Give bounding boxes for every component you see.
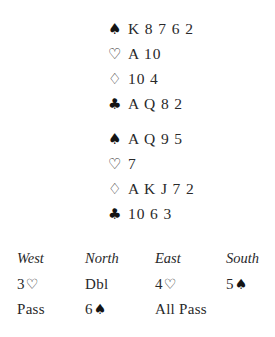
bid-east: All Pass (155, 297, 208, 322)
bid-west: 3♡ (17, 272, 39, 297)
bid-level: Pass (17, 301, 45, 317)
heart-icon: ♡ (163, 276, 177, 292)
heart-icon: ♡ (108, 42, 125, 67)
club-ranks: A Q 8 2 (125, 95, 183, 112)
bid-level: 3 (17, 276, 25, 292)
auction-row: Pass 6♠ All Pass (0, 297, 275, 322)
spade-icon: ♠ (93, 301, 107, 317)
bid-level: 5 (226, 276, 234, 292)
heart-icon: ♡ (108, 152, 125, 177)
club-ranks: 10 6 3 (125, 205, 172, 222)
suit-row-clubs: ♣10 6 3 (108, 201, 195, 226)
bid-level: 4 (155, 276, 163, 292)
bid-level: 6 (85, 301, 93, 317)
diamond-ranks: 10 4 (125, 70, 159, 87)
suit-icon (207, 301, 208, 317)
suit-icon (226, 301, 227, 317)
suit-row-diamonds: ♢10 4 (108, 66, 194, 91)
spade-icon: ♠ (234, 276, 248, 292)
heart-ranks: A 10 (125, 45, 161, 62)
auction-row: 3♡ Dbl 4♡ 5♠ (0, 272, 275, 297)
suit-row-diamonds: ♢A K J 7 2 (108, 176, 195, 201)
diamond-icon: ♢ (108, 67, 125, 92)
spade-icon: ♠ (108, 17, 125, 42)
bid-level: All Pass (155, 301, 207, 317)
auction-header-south: South (226, 246, 259, 271)
hand-south: ♠A Q 9 5 ♡7 ♢A K J 7 2 ♣10 6 3 (108, 126, 195, 226)
suit-row-spades: ♠K 8 7 6 2 (108, 16, 194, 41)
auction-table: West North East South 3♡ Dbl 4♡ 5♠ Pass … (0, 246, 275, 322)
bid-south: 5♠ (226, 272, 248, 297)
club-icon: ♣ (108, 92, 125, 117)
auction-header-east: East (155, 246, 181, 271)
bid-north: 6♠ (85, 297, 107, 322)
diamond-icon: ♢ (108, 177, 125, 202)
suit-row-hearts: ♡A 10 (108, 41, 194, 66)
bid-west: Pass (17, 297, 46, 322)
bid-south (226, 297, 227, 322)
auction-header-west: West (17, 246, 44, 271)
bid-level: Dbl (85, 276, 108, 292)
club-icon: ♣ (108, 202, 125, 227)
suit-row-clubs: ♣A Q 8 2 (108, 91, 194, 116)
suit-icon (45, 301, 46, 317)
suit-row-spades: ♠A Q 9 5 (108, 126, 195, 151)
spade-ranks: A Q 9 5 (125, 130, 183, 147)
heart-icon: ♡ (25, 276, 39, 292)
bid-north: Dbl (85, 272, 109, 297)
auction-header-north: North (85, 246, 119, 271)
hand-north: ♠K 8 7 6 2 ♡A 10 ♢10 4 ♣A Q 8 2 (108, 16, 194, 116)
spade-icon: ♠ (108, 127, 125, 152)
auction-header-row: West North East South (0, 246, 275, 272)
heart-ranks: 7 (125, 155, 137, 172)
diamond-ranks: A K J 7 2 (125, 180, 195, 197)
bid-east: 4♡ (155, 272, 177, 297)
suit-icon (108, 276, 109, 292)
spade-ranks: K 8 7 6 2 (125, 20, 194, 37)
suit-row-hearts: ♡7 (108, 151, 195, 176)
